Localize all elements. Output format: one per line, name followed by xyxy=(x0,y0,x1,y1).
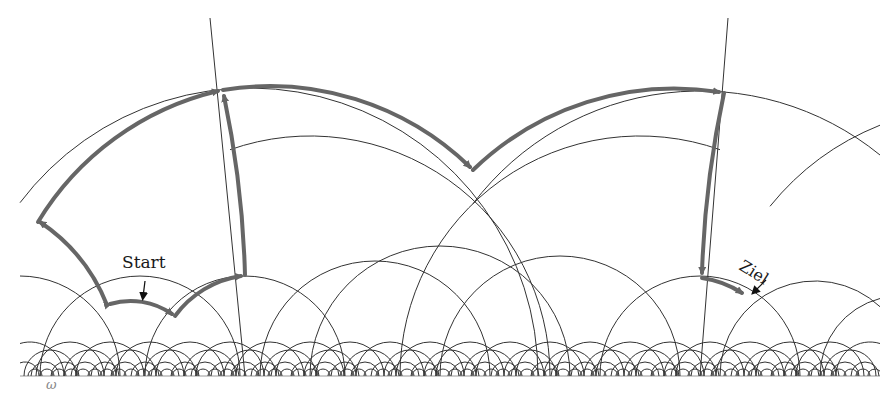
path-segment-7 xyxy=(702,93,724,273)
start-segment xyxy=(110,301,172,314)
geodesic-arc xyxy=(600,276,800,376)
geodesic-line xyxy=(700,18,728,376)
path-segment-6 xyxy=(473,89,719,170)
geodesic-arc xyxy=(260,261,490,376)
hyperbolic-tiling-diagram xyxy=(0,0,893,395)
path-segment-2 xyxy=(38,91,218,222)
geodesic-arc xyxy=(440,256,680,376)
boundary-point-label: ω xyxy=(46,377,57,392)
geodesic-arc xyxy=(40,276,240,376)
geodesic-arc xyxy=(145,276,345,376)
geodesic-grid xyxy=(20,18,880,376)
path-segment-4 xyxy=(224,96,245,275)
geodesic-arc xyxy=(770,125,880,206)
goal-segment xyxy=(702,278,742,293)
start-pointer-arrow xyxy=(143,281,145,297)
geodesic-arc xyxy=(473,91,880,204)
geodesic-arc xyxy=(20,88,538,376)
highlighted-path xyxy=(38,86,742,316)
start-label: Start xyxy=(122,252,166,272)
geodesic-arc xyxy=(820,299,880,377)
path-segment-1 xyxy=(40,222,107,305)
geodesic-arc xyxy=(20,276,120,376)
path-segment-5 xyxy=(223,86,470,167)
